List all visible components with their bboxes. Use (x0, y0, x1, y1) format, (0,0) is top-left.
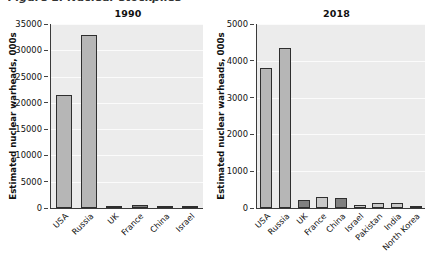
x-tick-cell: Israel (177, 209, 202, 269)
x-tick-cell: Russia (275, 209, 294, 269)
bar-cell (76, 24, 101, 208)
y-tick-label: 5000 (227, 19, 248, 29)
bar (56, 95, 72, 208)
x-tick-cell: China (151, 209, 176, 269)
bar-cell (332, 24, 351, 208)
bar-cell (369, 24, 388, 208)
y-tick-label: 15000 (15, 124, 42, 134)
bar-cell (350, 24, 369, 208)
bar (391, 203, 403, 208)
bar (157, 206, 173, 208)
x-axis-ticks-2018: USARussiaUKFranceChinaIsraelPakistanIndi… (256, 209, 424, 269)
y-tick-label: 0 (37, 203, 42, 213)
bar (260, 68, 272, 208)
y-tick-label: 20000 (15, 98, 42, 108)
y-tick-label: 1000 (227, 166, 248, 176)
y-axis-label-text-1990: Estimated nuclear warheads, 000s (8, 32, 18, 199)
x-tick-label: China (147, 211, 171, 235)
bar (335, 198, 347, 208)
x-tick-cell: China (331, 209, 350, 269)
y-tick-label: 35000 (15, 19, 42, 29)
y-tick-label: 2000 (227, 129, 248, 139)
plot-area-2018 (256, 24, 425, 209)
x-tick-label: UK (105, 211, 120, 226)
bar (354, 205, 366, 208)
bar-cell (294, 24, 313, 208)
figure-page: Figure 1: Nuclear stockpiles 1990 Estima… (0, 0, 433, 270)
bar (372, 203, 384, 208)
bar-cell (257, 24, 276, 208)
chart-panel-group: 1990 Estimated nuclear warheads, 000s 05… (0, 0, 433, 270)
bar (81, 35, 97, 208)
x-tick-cell: Pakistan (368, 209, 387, 269)
x-tick-label: USA (51, 211, 70, 230)
bar (279, 48, 291, 208)
y-tick-label: 3000 (227, 93, 248, 103)
x-tick-cell: France (126, 209, 151, 269)
bar-cell (152, 24, 177, 208)
bar-series-1990 (51, 24, 203, 208)
bar-cell (313, 24, 332, 208)
y-axis-ticks-2018: 010002000300040005000 (224, 24, 254, 208)
bar-cell (102, 24, 127, 208)
plot-area-1990 (50, 24, 203, 209)
bar-cell (178, 24, 203, 208)
bar-cell (388, 24, 407, 208)
bar-cell (276, 24, 295, 208)
y-tick-label: 25000 (15, 72, 42, 82)
bar (316, 197, 328, 208)
x-tick-cell: North Korea (405, 209, 424, 269)
bar (106, 206, 122, 208)
y-tick-label: 0 (243, 203, 248, 213)
chart-panel-1990: 1990 Estimated nuclear warheads, 000s 05… (4, 4, 210, 266)
bar (298, 200, 310, 208)
y-tick-label: 30000 (15, 45, 42, 55)
x-tick-cell: USA (50, 209, 75, 269)
chart-title-1990: 1990 (4, 8, 210, 19)
bar (132, 205, 148, 208)
x-tick-cell: USA (256, 209, 275, 269)
y-tick-label: 4000 (227, 56, 248, 66)
bar-cell (406, 24, 425, 208)
chart-panel-2018: 2018 Estimated nuclear warheads, 000s 01… (212, 4, 431, 266)
x-axis-ticks-1990: USARussiaUKFranceChinaIsrael (50, 209, 202, 269)
chart-title-2018: 2018 (212, 8, 431, 19)
x-tick-label: Israel (173, 211, 196, 234)
bar (410, 206, 422, 208)
bar-cell (127, 24, 152, 208)
y-tick-label: 5000 (21, 177, 42, 187)
y-tick-label: 10000 (15, 150, 42, 160)
x-tick-cell: Russia (75, 209, 100, 269)
y-axis-ticks-1990: 05000100001500020000250003000035000 (18, 24, 48, 208)
x-tick-cell: UK (101, 209, 126, 269)
x-tick-cell: UK (293, 209, 312, 269)
x-tick-cell: France (312, 209, 331, 269)
bar-series-2018 (257, 24, 425, 208)
bar-cell (51, 24, 76, 208)
bar (182, 206, 198, 208)
